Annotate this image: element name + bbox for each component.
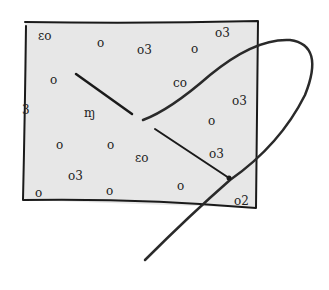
sketch-canvas: [0, 0, 329, 290]
speckle-mark: o: [191, 43, 198, 55]
speckle-mark: co: [173, 77, 187, 89]
speckle-mark: o2: [234, 195, 249, 207]
speckle-mark: ɛo: [135, 152, 148, 164]
speckle-mark: o: [35, 187, 42, 199]
speckle-mark: o: [50, 74, 57, 86]
speckle-mark: o3: [209, 148, 224, 160]
speckle-mark: o3: [137, 44, 152, 56]
speckle-mark: ɱ: [84, 107, 95, 119]
speckle-mark: o: [97, 37, 104, 49]
speckle-mark: o: [56, 139, 63, 151]
speckle-mark: o: [177, 180, 184, 192]
speckle-mark: ɛo: [38, 30, 51, 42]
speckle-mark: o: [106, 185, 113, 197]
speckle-mark: 3: [22, 104, 30, 116]
speckle-mark: o3: [232, 95, 247, 107]
needle-eye: [227, 176, 232, 181]
speckle-mark: o: [208, 115, 215, 127]
speckle-mark: o3: [215, 27, 230, 39]
speckle-mark: o: [107, 139, 114, 151]
speckle-mark: o3: [68, 170, 83, 182]
